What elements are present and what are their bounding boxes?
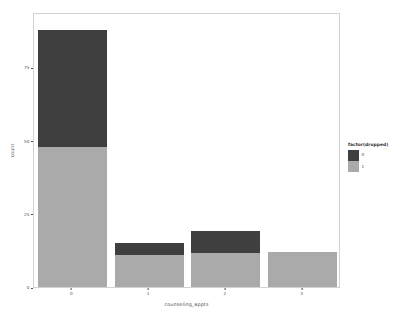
plot-panel	[33, 13, 340, 288]
bar-segment	[115, 255, 184, 287]
x-axis-tick-label: 2	[223, 292, 226, 296]
chart-container: 0255075 count 0123 counseling_appts fact…	[0, 0, 403, 325]
x-axis-tick: 3	[300, 288, 303, 296]
bar-segment	[38, 147, 107, 287]
legend: factor(dropped) 01	[348, 143, 400, 173]
x-axis-tick: 2	[223, 288, 226, 296]
y-axis-tick-label: 25	[24, 213, 30, 217]
legend-item-label: 0	[362, 153, 365, 157]
y-axis-title-label: count	[11, 144, 16, 158]
x-axis-tick-mark	[71, 288, 72, 290]
bar-group	[38, 12, 107, 287]
x-axis-tick: 1	[147, 288, 150, 296]
bar-group	[191, 12, 260, 287]
bar-segment	[115, 243, 184, 255]
bar-segment	[268, 252, 337, 287]
bar-segment	[191, 253, 260, 287]
y-axis-tick-label: 0	[27, 286, 30, 290]
legend-items: 01	[348, 150, 400, 173]
x-axis-tick: 0	[70, 288, 73, 296]
y-axis-title: count	[8, 13, 18, 288]
legend-swatch-icon	[348, 161, 359, 172]
legend-item[interactable]: 1	[348, 161, 400, 172]
x-axis-tick-label: 0	[70, 292, 73, 296]
legend-swatch-icon	[348, 150, 359, 161]
bars-layer	[34, 14, 339, 287]
x-axis-tick-mark	[301, 288, 302, 290]
legend-item-label: 1	[362, 165, 365, 169]
bar-group	[268, 12, 337, 287]
x-axis-tick-label: 1	[147, 292, 150, 296]
legend-item[interactable]: 0	[348, 150, 400, 161]
bar-group	[115, 12, 184, 287]
y-axis-tick-label: 50	[24, 140, 30, 144]
bar-segment	[191, 231, 260, 253]
bar-segment	[38, 30, 107, 147]
x-axis-tick-mark	[148, 288, 149, 290]
x-axis: 0123	[33, 288, 340, 302]
x-axis-tick-mark	[224, 288, 225, 290]
legend-title: factor(dropped)	[348, 143, 400, 147]
y-axis-tick-label: 75	[24, 66, 30, 70]
x-axis-tick-label: 3	[300, 292, 303, 296]
x-axis-title: counseling_appts	[33, 302, 340, 307]
